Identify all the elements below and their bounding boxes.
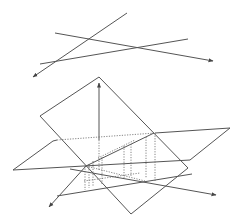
top-skew-lines bbox=[33, 13, 213, 77]
horizontal-plane-back-edge bbox=[53, 140, 57, 141]
bottom-plane-diagram bbox=[13, 77, 230, 214]
lower-line bbox=[57, 174, 192, 196]
intersection-line bbox=[86, 133, 154, 166]
projected-line-front bbox=[49, 166, 86, 207]
tilted-plane bbox=[40, 77, 188, 214]
diagram-canvas bbox=[0, 0, 240, 222]
horizontal-plane-hidden-edge bbox=[57, 133, 155, 140]
line-b bbox=[55, 33, 213, 61]
line-a bbox=[33, 13, 127, 77]
geometry-figure bbox=[0, 0, 240, 222]
line-c bbox=[40, 39, 188, 64]
projected-line-upper bbox=[98, 140, 135, 158]
